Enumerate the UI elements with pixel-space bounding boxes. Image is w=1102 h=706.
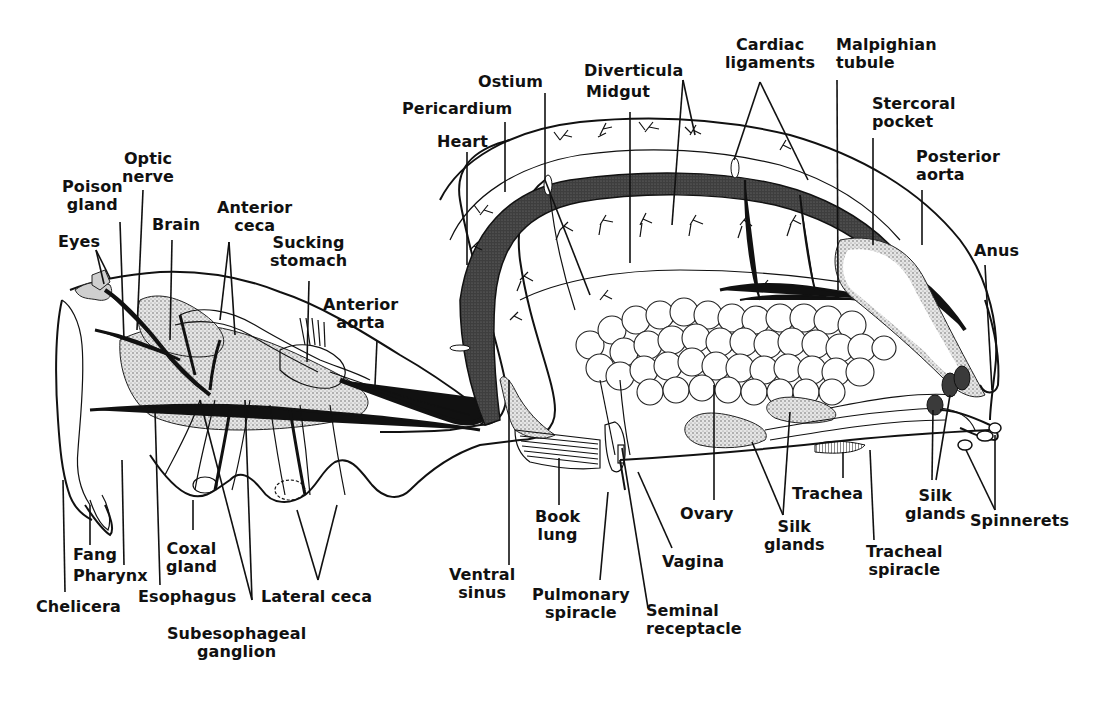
label-anterior-aorta: Anterior aorta bbox=[323, 296, 398, 332]
label-silk-glands-ventral: Silk glands bbox=[764, 518, 825, 554]
cephalothorax bbox=[56, 270, 520, 535]
label-book-lung: Book lung bbox=[535, 508, 580, 544]
label-midgut: Midgut bbox=[586, 83, 650, 101]
label-heart: Heart bbox=[437, 133, 488, 151]
label-brain: Brain bbox=[152, 216, 200, 234]
label-lateral-ceca: Lateral ceca bbox=[261, 588, 372, 606]
label-silk-glands-posterior: Silk glands bbox=[905, 487, 966, 523]
label-optic-nerve: Optic nerve bbox=[122, 150, 174, 186]
label-spinnerets: Spinnerets bbox=[970, 512, 1069, 530]
sucking-stomach-muscles bbox=[300, 318, 325, 347]
label-eyes: Eyes bbox=[58, 233, 100, 251]
label-coxal-gland: Coxal gland bbox=[166, 540, 217, 576]
label-pericardium: Pericardium bbox=[402, 100, 512, 118]
label-esophagus: Esophagus bbox=[138, 588, 236, 606]
label-cardiac-ligaments: Cardiac ligaments bbox=[725, 36, 815, 72]
label-chelicera: Chelicera bbox=[36, 598, 121, 616]
label-subesophageal-ganglion: Subesophageal ganglion bbox=[167, 625, 306, 661]
label-trachea: Trachea bbox=[792, 485, 863, 503]
label-vagina: Vagina bbox=[662, 553, 724, 571]
label-fang: Fang bbox=[73, 546, 117, 564]
label-anterior-ceca: Anterior ceca bbox=[217, 199, 292, 235]
label-stercoral-pocket: Stercoral pocket bbox=[872, 95, 955, 131]
label-anus: Anus bbox=[974, 242, 1019, 260]
label-malpighian-tubule: Malpighian tubule bbox=[836, 36, 937, 72]
label-ostium: Ostium bbox=[478, 73, 543, 91]
label-ovary: Ovary bbox=[680, 505, 734, 523]
label-tracheal-spiracle: Tracheal spiracle bbox=[866, 543, 943, 579]
label-posterior-aorta: Posterior aorta bbox=[916, 148, 1000, 184]
spider-anatomy-diagram: Optic nerve Poison gland Eyes Brain Ante… bbox=[0, 0, 1102, 706]
label-seminal-receptacle: Seminal receptacle bbox=[646, 602, 742, 638]
ovary-eggs bbox=[576, 298, 896, 405]
label-pharynx: Pharynx bbox=[73, 567, 148, 585]
label-ventral-sinus: Ventral sinus bbox=[449, 566, 515, 602]
label-pulmonary-spiracle: Pulmonary spiracle bbox=[532, 586, 630, 622]
label-sucking-stomach: Sucking stomach bbox=[270, 234, 347, 270]
label-poison-gland: Poison gland bbox=[62, 178, 123, 214]
label-diverticula: Diverticula bbox=[584, 62, 683, 80]
